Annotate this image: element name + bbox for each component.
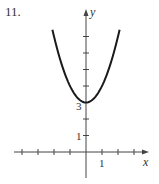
tick-labels: 113xy — [76, 5, 149, 169]
x-axis-label: x — [142, 155, 149, 169]
y-axis-label: y — [89, 5, 96, 19]
parabola-graph: 113xy — [0, 0, 159, 184]
axes — [14, 9, 149, 178]
y-axis-arrow-icon — [84, 9, 89, 16]
y-tick-label: 1 — [76, 130, 82, 142]
x-tick-label: 1 — [99, 157, 105, 169]
x-axis-arrow-icon — [142, 150, 149, 155]
